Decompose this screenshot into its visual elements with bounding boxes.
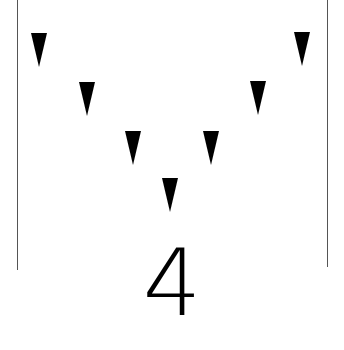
- left-boundary-line: [17, 0, 18, 270]
- down-triangle-icon: [31, 33, 47, 67]
- down-triangle-icon: [125, 131, 141, 165]
- right-boundary-line: [327, 0, 328, 267]
- down-triangle-icon: [162, 178, 178, 212]
- count-label: 4: [140, 238, 204, 330]
- down-triangle-icon: [250, 81, 266, 115]
- figure-canvas: 4: [0, 0, 344, 350]
- down-triangle-icon: [203, 131, 219, 165]
- down-triangle-icon: [294, 32, 310, 66]
- down-triangle-icon: [79, 82, 95, 116]
